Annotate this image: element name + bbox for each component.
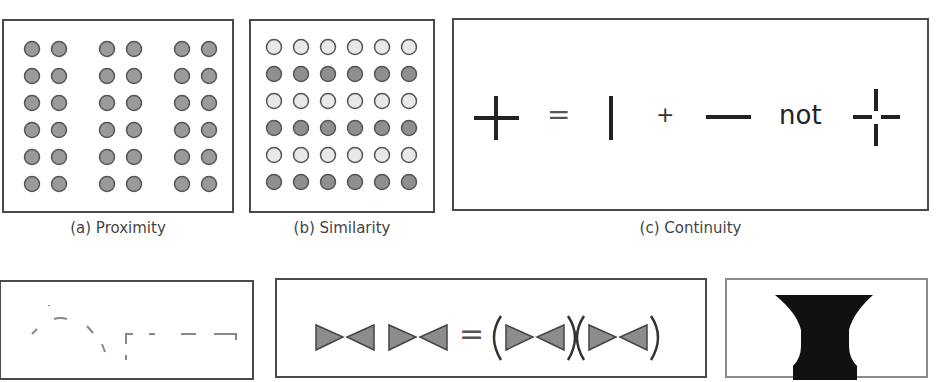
equals-sign: = [459, 316, 484, 351]
caption-similarity: (b) Similarity [249, 219, 435, 237]
panel-figure-ground [725, 278, 928, 378]
panel-similarity [249, 19, 435, 213]
continuity-equation [454, 20, 931, 213]
panel-closure [0, 280, 254, 380]
figure-ground-vase [727, 280, 930, 380]
panel-continuity: = + not [452, 18, 929, 211]
equals-sign: = [547, 98, 570, 131]
not-label: not [779, 100, 822, 130]
closure-dashed-shapes [1, 282, 256, 382]
symmetry-equation [277, 280, 709, 380]
caption-continuity: (c) Continuity [452, 219, 929, 237]
similarity-dot-grid [251, 21, 437, 215]
caption-proximity: (a) Proximity [2, 219, 234, 237]
panel-proximity [2, 19, 234, 213]
panel-symmetry: = [275, 278, 707, 378]
proximity-dot-grid [4, 21, 236, 215]
plus-sign: + [656, 102, 674, 127]
